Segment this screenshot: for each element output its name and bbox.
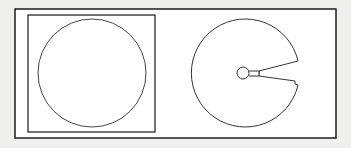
center-small-circle — [237, 67, 249, 79]
diagram-canvas — [0, 0, 351, 148]
center-notch — [249, 71, 259, 76]
